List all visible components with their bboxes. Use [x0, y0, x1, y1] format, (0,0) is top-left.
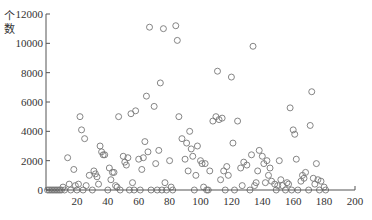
data-point — [284, 180, 290, 186]
x-tick-label: 100 — [192, 195, 209, 207]
data-point — [174, 37, 180, 43]
data-point — [313, 161, 319, 167]
data-point — [156, 147, 162, 153]
x-tick-label: 40 — [102, 195, 114, 207]
data-point — [210, 118, 216, 124]
data-point — [71, 166, 77, 172]
data-point — [147, 24, 153, 30]
y-axis-label-line1: 个 — [4, 10, 15, 22]
data-point — [187, 128, 193, 134]
data-point — [262, 180, 268, 186]
data-point — [139, 166, 145, 172]
data-point — [83, 183, 89, 189]
y-tick-label: 4000 — [21, 125, 44, 137]
data-point — [190, 153, 196, 159]
data-point — [185, 168, 191, 174]
data-point — [256, 147, 262, 153]
data-point — [228, 74, 234, 80]
data-point — [293, 156, 299, 162]
y-tick-label: 8000 — [21, 67, 44, 79]
x-tick-label: 80 — [164, 195, 176, 207]
x-tick-label: 200 — [347, 195, 364, 207]
data-point — [307, 122, 313, 128]
data-point — [188, 146, 194, 152]
x-tick-label: 140 — [254, 195, 271, 207]
data-point — [108, 177, 114, 183]
data-point — [218, 177, 224, 183]
data-point — [224, 164, 230, 170]
x-tick-label: 60 — [133, 195, 145, 207]
y-axis-label-line2: 数 — [4, 23, 15, 35]
y-tick-label: 12000 — [16, 8, 44, 20]
data-point — [193, 172, 199, 178]
data-point — [142, 139, 148, 145]
data-point — [130, 180, 136, 186]
data-point — [82, 136, 88, 142]
data-point — [267, 165, 273, 171]
data-point — [214, 68, 220, 74]
data-point — [286, 181, 292, 187]
y-tick-label: 10000 — [16, 37, 44, 49]
data-point — [97, 143, 103, 149]
data-point — [167, 158, 173, 164]
data-point — [287, 105, 293, 111]
data-point — [182, 156, 188, 162]
data-point — [250, 43, 256, 49]
data-point — [145, 149, 151, 155]
scatter-chart: 020004000600080001000012000 204060801001… — [0, 0, 372, 220]
data-point — [230, 140, 236, 146]
data-point — [312, 181, 318, 187]
y-tick-label: 2000 — [21, 155, 44, 167]
data-point — [133, 108, 139, 114]
data-point — [239, 183, 245, 189]
data-point — [160, 26, 166, 32]
y-tick-label: 0 — [38, 184, 44, 196]
data-point — [238, 165, 244, 171]
data-point — [65, 155, 71, 161]
data-point — [162, 180, 168, 186]
data-point — [255, 168, 261, 174]
data-point — [79, 127, 85, 133]
data-point — [153, 161, 159, 167]
data-point — [116, 114, 122, 120]
y-tick-label: 6000 — [21, 96, 44, 108]
x-tick-label: 160 — [285, 195, 302, 207]
data-point — [151, 103, 157, 109]
data-point — [143, 93, 149, 99]
x-tick-label: 120 — [223, 195, 240, 207]
data-point — [176, 114, 182, 120]
data-point — [77, 114, 83, 120]
data-point — [276, 158, 282, 164]
data-point — [184, 140, 190, 146]
data-point — [66, 181, 72, 187]
data-point — [96, 181, 102, 187]
y-axis-ticks: 020004000600080001000012000 — [16, 8, 51, 196]
data-point — [278, 177, 284, 183]
data-point — [207, 168, 213, 174]
data-point — [265, 172, 271, 178]
x-tick-label: 180 — [316, 195, 333, 207]
data-point — [248, 152, 254, 158]
data-point — [173, 23, 179, 29]
data-point — [194, 143, 200, 149]
data-points — [45, 23, 329, 193]
data-point — [157, 80, 163, 86]
data-point — [309, 89, 315, 95]
data-point — [225, 172, 231, 178]
x-axis-ticks: 20406080100120140160180200 — [71, 195, 363, 207]
x-tick-label: 20 — [71, 195, 83, 207]
data-point — [235, 118, 241, 124]
